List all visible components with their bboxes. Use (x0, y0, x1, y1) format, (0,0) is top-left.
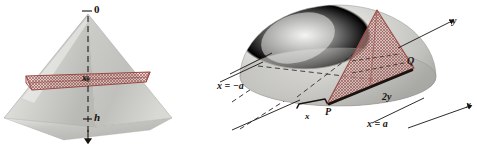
axis-x-label: x (466, 100, 471, 110)
pyramid-cross-section-label: x (82, 73, 87, 83)
left-pyramid-group (4, 11, 172, 141)
pyramid-apex-label: 0 (94, 4, 100, 15)
point-q-label: Q (407, 56, 414, 66)
plane-x-neg-a-label: x = −a (217, 81, 244, 91)
axis-x (408, 106, 470, 128)
x-offset-label: x (305, 112, 310, 121)
ground-line-left (232, 100, 300, 130)
right-hemisphere-group (220, 3, 470, 130)
figure-illustration (0, 0, 477, 147)
chord-length-label: 2y (382, 92, 391, 102)
pyramid-depth-label: h (94, 112, 100, 123)
axis-y-label: y (452, 16, 456, 26)
point-p-label: P (325, 107, 331, 117)
math-figure-panel: 0 h x y x x = −a x = a 2y x P Q (0, 0, 477, 147)
plane-x-pos-a-label: x = a (367, 119, 388, 129)
